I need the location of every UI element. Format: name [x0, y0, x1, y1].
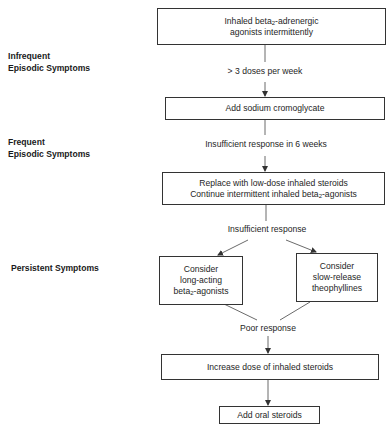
- node-text-line: Replace with low-dose inhaled steroids: [190, 178, 357, 189]
- node-long-acting-beta2-agonists: Consider long-acting beta2-agonists: [159, 256, 243, 305]
- node-text-line: agonists intermittently: [224, 27, 318, 38]
- node-text-line: Inhaled beta2-adrenergic: [224, 16, 318, 27]
- node-text-line: beta2-agonists: [174, 286, 229, 297]
- node-add-oral-steroids: Add oral steroids: [219, 406, 320, 424]
- node-text-line: Continue intermittent inhaled beta2-agon…: [190, 189, 357, 200]
- condition-insufficient-6-weeks: Insufficient response in 6 weeks: [205, 139, 327, 149]
- condition-insufficient-response: Insufficient response: [228, 224, 307, 234]
- node-text-line: slow-release: [312, 272, 362, 283]
- node-text-line: Increase dose of inhaled steroids: [207, 362, 333, 373]
- node-text-line: Consider: [312, 261, 362, 272]
- node-text-line: theophyllines: [312, 283, 362, 294]
- node-add-sodium-cromoglycate: Add sodium cromoglycate: [165, 97, 385, 120]
- node-increase-inhaled-steroids: Increase dose of inhaled steroids: [161, 354, 379, 380]
- condition-doses-per-week: > 3 doses per week: [228, 66, 303, 76]
- node-inhaled-beta2-agonists: Inhaled beta2-adrenergic agonists interm…: [157, 8, 386, 45]
- node-text-line: Add oral steroids: [237, 410, 302, 421]
- condition-poor-response: Poor response: [240, 323, 296, 333]
- node-replace-low-dose-steroids: Replace with low-dose inhaled steroids C…: [162, 172, 385, 205]
- node-text-line: long-acting: [174, 275, 229, 286]
- node-text-line: Consider: [174, 264, 229, 275]
- node-text-line: Add sodium cromoglycate: [226, 103, 325, 114]
- node-slow-release-theophyllines: Consider slow-release theophyllines: [296, 253, 378, 302]
